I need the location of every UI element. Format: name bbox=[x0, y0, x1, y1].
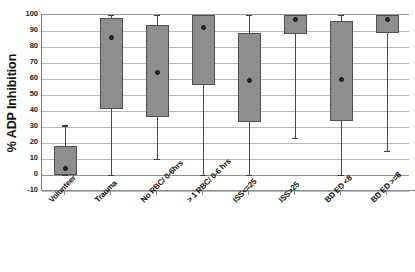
x-category-label: BD ED >=8 bbox=[369, 170, 403, 204]
x-category-label: Volunteer bbox=[47, 174, 78, 205]
x-category-label: Trauma bbox=[93, 179, 119, 205]
x-tick-mark bbox=[294, 190, 295, 195]
x-tick-mark bbox=[64, 190, 65, 195]
x-axis-category-labels: VolunteerTraumaNo RBC/ 0-6hrs> 1 RBC/ 0-… bbox=[0, 0, 415, 272]
x-tick-mark bbox=[386, 190, 387, 195]
x-category-label: > 1 RBC/ 0-6 hrs bbox=[185, 157, 233, 205]
box-plot-chart: % ADP Inhibition 1009080706050403020100-… bbox=[0, 0, 415, 272]
x-tick-mark bbox=[248, 190, 249, 195]
x-tick-mark bbox=[110, 190, 111, 195]
x-category-label: ISS>25 bbox=[277, 180, 301, 204]
x-category-label: ISS<=25 bbox=[231, 177, 258, 204]
x-tick-mark bbox=[340, 190, 341, 195]
x-tick-mark bbox=[202, 190, 203, 195]
x-tick-mark bbox=[156, 190, 157, 195]
x-category-label: No RBC/ 0-6hrs bbox=[139, 158, 185, 204]
x-category-label: BD ED <8 bbox=[323, 174, 354, 205]
